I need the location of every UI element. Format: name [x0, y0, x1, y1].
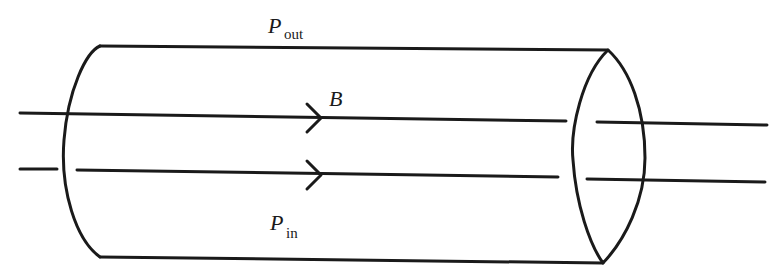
label-p-out: P out	[267, 13, 304, 42]
upper-field-line	[20, 104, 767, 132]
label-b: B	[329, 86, 342, 111]
lower-field-line	[20, 161, 765, 189]
svg-text:P: P	[269, 210, 283, 235]
lower-arrowhead-icon	[307, 161, 321, 189]
label-p-in: P in	[269, 210, 298, 241]
svg-text:P: P	[267, 13, 281, 38]
svg-text:in: in	[286, 225, 298, 241]
svg-text:out: out	[284, 26, 304, 42]
cylinder	[63, 46, 645, 263]
cylinder-right-ellipse	[573, 50, 645, 263]
cylinder-left-arc	[63, 46, 100, 257]
cylinder-bottom-edge	[100, 257, 603, 263]
cylinder-top-edge	[100, 46, 608, 50]
flux-tube-diagram: P out B P in	[0, 0, 783, 278]
svg-text:B: B	[329, 86, 342, 111]
